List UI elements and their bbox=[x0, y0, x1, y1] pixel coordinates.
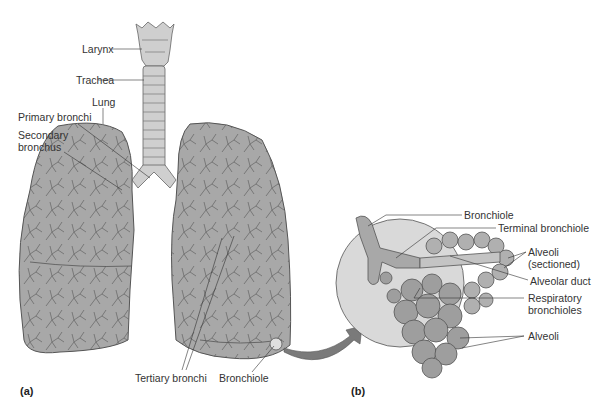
label-respiratory-bronchioles-line1: Respiratory bbox=[528, 292, 582, 304]
left-lung bbox=[172, 123, 291, 359]
label-terminal-bronchiole: Terminal bronchiole bbox=[498, 222, 589, 234]
larynx-shape bbox=[136, 22, 174, 66]
panel-label-a: (a) bbox=[20, 385, 33, 397]
label-lung: Lung bbox=[92, 96, 115, 108]
label-trachea: Trachea bbox=[76, 74, 114, 86]
label-tertiary-bronchi: Tertiary bronchi bbox=[135, 372, 207, 384]
label-secondary-bronchus-line2: bronchus bbox=[18, 141, 61, 153]
label-alveoli-sectioned-line2: (sectioned) bbox=[528, 258, 580, 270]
label-bronchiole-a: Bronchiole bbox=[219, 372, 269, 384]
panel-label-b: (b) bbox=[351, 385, 365, 397]
label-respiratory-bronchioles-line2: bronchioles bbox=[528, 304, 582, 316]
label-alveolar-duct: Alveolar duct bbox=[530, 275, 591, 287]
label-alveoli: Alveoli bbox=[528, 330, 559, 342]
zoom-arrow-icon bbox=[284, 326, 362, 360]
label-primary-bronchi: Primary bronchi bbox=[18, 111, 92, 123]
label-secondary-bronchus-line1: Secondary bbox=[18, 129, 68, 141]
label-bronchiole-b: Bronchiole bbox=[464, 209, 514, 221]
label-alveoli-sectioned-line1: Alveoli bbox=[528, 246, 559, 258]
respiratory-diagram bbox=[0, 0, 607, 415]
right-lung bbox=[19, 123, 134, 353]
label-larynx: Larynx bbox=[82, 43, 114, 55]
